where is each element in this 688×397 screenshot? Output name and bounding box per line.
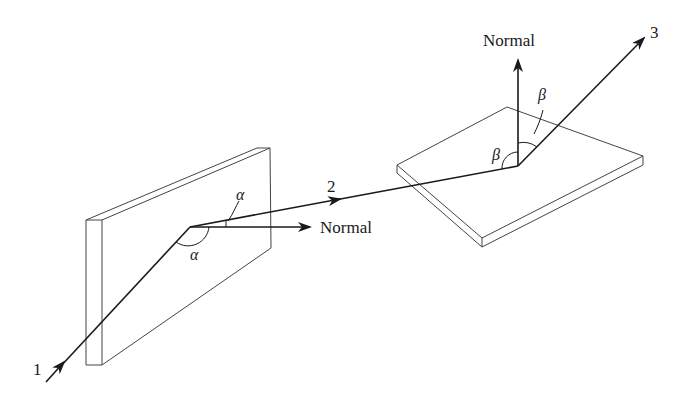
ray-3-label: 3 bbox=[650, 23, 659, 42]
beta-label-left: β bbox=[491, 146, 500, 164]
vertical-mirror-plate bbox=[86, 148, 271, 365]
alpha-label-bottom: α bbox=[190, 246, 199, 263]
normal-label-right: Normal bbox=[483, 31, 535, 50]
reflection-diagram: 1 2 3 Normal Normal α α β β bbox=[0, 0, 688, 397]
horizontal-mirror-plate bbox=[397, 107, 643, 247]
ray-2-label: 2 bbox=[327, 177, 336, 196]
beta-angle-arcs bbox=[502, 110, 543, 169]
ray-1-label: 1 bbox=[33, 360, 42, 379]
normal-label-left: Normal bbox=[320, 218, 372, 237]
alpha-label-top: α bbox=[236, 186, 245, 203]
incident-ray-1 bbox=[46, 227, 190, 382]
beta-label-right: β bbox=[537, 86, 546, 104]
